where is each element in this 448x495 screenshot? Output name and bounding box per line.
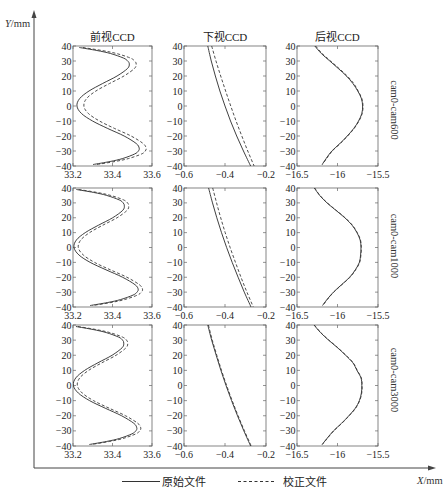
y-tick-label: −20 — [280, 131, 296, 142]
figure-canvas: Y/mm X/mm 前视CCD 下视CCD 后视CCD cam0-cam600 … — [0, 0, 448, 495]
x-tick-label: −0.2 — [257, 449, 275, 460]
axes-frame — [297, 46, 378, 166]
y-tick-label: 0 — [67, 380, 72, 391]
y-tick-label: 20 — [286, 350, 296, 361]
x-tick-label: −0.4 — [216, 310, 234, 321]
x-tick-label: −16.5 — [285, 449, 308, 460]
y-tick-label: 30 — [62, 335, 72, 346]
y-axis-unit: /mm — [11, 18, 30, 29]
x-axis-unit: /mm — [423, 475, 442, 486]
y-tick-label: 10 — [62, 227, 72, 238]
corrected-file-curve — [315, 188, 362, 306]
x-tick-label: −15.5 — [366, 449, 389, 460]
corrected-file-curve — [78, 189, 142, 305]
y-tick-label: 10 — [286, 86, 296, 97]
corrected-file-curve — [77, 327, 141, 445]
legend-label-original: 原始文件 — [162, 475, 206, 488]
y-tick-label: 10 — [286, 227, 296, 238]
y-tick-label: −20 — [280, 272, 296, 283]
y-tick-label: 40 — [286, 320, 296, 331]
y-tick-label: −10 — [56, 116, 72, 127]
curve-group — [73, 327, 141, 445]
y-tick-label: 20 — [62, 71, 72, 82]
y-tick-label: −30 — [280, 146, 296, 157]
y-tick-label: 0 — [67, 242, 72, 253]
curve-group — [208, 46, 254, 166]
column-title-rear-ccd: 后视CCD — [315, 30, 360, 43]
x-axis-label: X/mm — [416, 475, 443, 486]
y-tick-label: −30 — [167, 425, 183, 436]
y-tick-label: −10 — [280, 257, 296, 268]
x-tick-label: 33.6 — [143, 169, 161, 180]
y-tick-label: −10 — [167, 116, 183, 127]
y-tick-label: 20 — [173, 350, 183, 361]
y-tick-label: 20 — [62, 212, 72, 223]
row-label-cam1000: cam0-cam1000 — [389, 214, 400, 279]
y-tick-label: −20 — [167, 272, 183, 283]
subplot-grid: 403020100−10−20−30−4033.233.433.64030201… — [56, 41, 390, 460]
axes-frame — [297, 325, 378, 446]
y-tick-label: −10 — [56, 395, 72, 406]
axes-frame — [184, 188, 266, 307]
curve-group — [209, 188, 254, 307]
y-tick-label: 20 — [286, 71, 296, 82]
x-tick-label: −0.2 — [257, 169, 275, 180]
x-tick-label: −16 — [330, 449, 346, 460]
y-tick-label: 30 — [173, 56, 183, 67]
y-tick-label: 10 — [62, 365, 72, 376]
row-label-cam600: cam0-cam600 — [389, 80, 400, 139]
x-tick-label: −0.6 — [175, 449, 193, 460]
subplot-r1-c3-cam0-cam600: 403020100−10−20−30−40−16.5−16−15.5 — [280, 41, 390, 180]
y-tick-label: 0 — [291, 242, 296, 253]
subplot-r1-c1-cam0-cam600: 403020100−10−20−30−4033.233.433.6 — [56, 41, 161, 180]
axes-frame — [73, 188, 152, 307]
y-tick-label: 30 — [286, 197, 296, 208]
y-tick-label: 30 — [286, 56, 296, 67]
subplot-r2-c2-cam0-cam1000: 403020100−10−20−30−40−0.6−0.4−0.2 — [167, 183, 275, 321]
y-tick-label: −10 — [167, 395, 183, 406]
column-title-down-ccd: 下视CCD — [203, 30, 248, 43]
y-tick-label: −20 — [56, 131, 72, 142]
y-tick-label: −20 — [280, 410, 296, 421]
y-tick-label: 0 — [178, 101, 183, 112]
y-tick-label: 20 — [173, 71, 183, 82]
x-tick-label: −15.5 — [366, 310, 389, 321]
subplot-r3-c2-cam0-cam3000: 403020100−10−20−30−40−0.6−0.4−0.2 — [167, 320, 275, 460]
y-tick-label: 0 — [178, 380, 183, 391]
y-tick-label: 10 — [173, 227, 183, 238]
y-axis-arrow — [32, 10, 37, 468]
y-tick-label: 10 — [173, 365, 183, 376]
x-tick-label: 33.2 — [64, 449, 82, 460]
original-file-curve — [315, 46, 363, 165]
curve-group — [314, 325, 362, 444]
y-tick-label: 20 — [286, 212, 296, 223]
y-tick-label: 30 — [173, 335, 183, 346]
legend-item-corrected: 校正文件 — [238, 475, 327, 488]
y-tick-label: −10 — [56, 257, 72, 268]
x-tick-label: 33.4 — [104, 169, 122, 180]
y-tick-label: 40 — [62, 183, 72, 194]
y-tick-label: 20 — [62, 350, 72, 361]
y-tick-label: −10 — [167, 257, 183, 268]
y-tick-label: −30 — [167, 146, 183, 157]
curve-group — [315, 46, 363, 165]
y-tick-label: 10 — [286, 365, 296, 376]
arrow-right-icon — [428, 466, 436, 471]
y-tick-label: 40 — [173, 183, 183, 194]
y-tick-label: −30 — [56, 146, 72, 157]
curve-group — [77, 48, 146, 165]
y-tick-label: 40 — [286, 41, 296, 52]
x-tick-label: 33.6 — [143, 449, 161, 460]
y-tick-label: −20 — [167, 131, 183, 142]
y-tick-label: 30 — [62, 197, 72, 208]
original-file-curve — [77, 48, 139, 165]
y-tick-label: 40 — [173, 320, 183, 331]
y-tick-label: −20 — [56, 410, 72, 421]
x-tick-label: −0.4 — [216, 169, 234, 180]
y-tick-label: 30 — [286, 335, 296, 346]
y-tick-label: 40 — [173, 41, 183, 52]
y-tick-label: 40 — [286, 183, 296, 194]
row-label-cam3000: cam0-cam3000 — [389, 348, 400, 413]
subplot-r3-c1-cam0-cam3000: 403020100−10−20−30−4033.233.433.6 — [56, 320, 161, 460]
column-title-front-ccd: 前视CCD — [90, 30, 135, 43]
